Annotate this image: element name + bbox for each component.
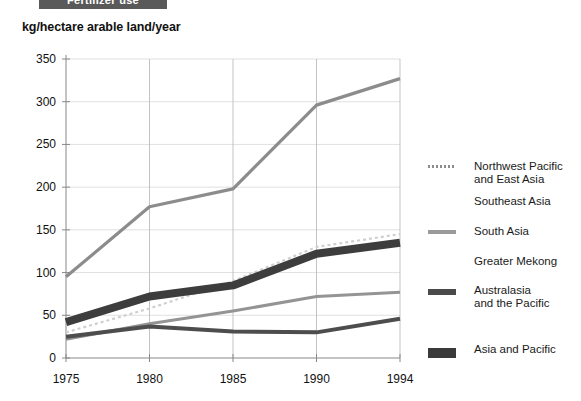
x-tick-label: 1985	[203, 372, 263, 386]
y-tick-label: 0	[16, 353, 56, 363]
legend-label: Northwest Pacific and East Asia	[474, 160, 563, 185]
legend-label: South Asia	[474, 225, 529, 238]
y-tick-label: 150	[16, 225, 56, 235]
legend-item[interactable]: Southeast Asia	[428, 195, 551, 208]
x-tick-label: 1980	[120, 372, 180, 386]
y-tick-label: 50	[16, 310, 56, 320]
y-tick-label: 300	[16, 97, 56, 107]
y-tick-label: 250	[16, 139, 56, 149]
legend-label: Asia and Pacific	[474, 343, 556, 356]
y-tick-label: 350	[16, 54, 56, 64]
chart-page: Fertilizer use kg/hectare arable land/ye…	[0, 0, 581, 401]
legend-item[interactable]: South Asia	[428, 225, 529, 238]
legend-swatch	[428, 348, 456, 358]
legend-swatch	[428, 230, 456, 234]
legend-label: Southeast Asia	[474, 195, 551, 208]
x-tick-label: 1990	[287, 372, 347, 386]
legend-item[interactable]: Greater Mekong	[428, 255, 557, 268]
legend-label: Australasia and the Pacific	[474, 284, 549, 309]
legend-item[interactable]: Northwest Pacific and East Asia	[428, 160, 563, 185]
legend-swatch	[428, 289, 456, 295]
gridlines	[66, 59, 400, 358]
y-tick-label: 100	[16, 268, 56, 278]
legend-label: Greater Mekong	[474, 255, 557, 268]
x-tick-label: 1994	[370, 372, 430, 386]
legend-swatch	[428, 165, 456, 168]
y-tick-label: 200	[16, 182, 56, 192]
legend-item[interactable]: Australasia and the Pacific	[428, 284, 549, 309]
axes	[62, 55, 400, 362]
legend-item[interactable]: Asia and Pacific	[428, 343, 556, 358]
x-tick-label: 1975	[36, 372, 96, 386]
